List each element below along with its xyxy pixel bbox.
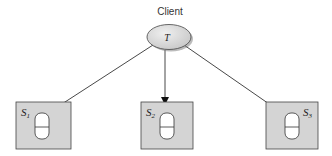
database-icon: [35, 113, 49, 139]
client-label: Client: [157, 6, 183, 17]
server-s3: S3: [266, 102, 318, 149]
database-icon: [285, 113, 299, 139]
client-node: T: [147, 25, 193, 52]
database-icon: [160, 113, 174, 139]
server-s2: S2: [141, 102, 193, 149]
server-s1: S1: [16, 102, 71, 149]
diagram-canvas: Client T S1 S2 S3: [0, 0, 332, 156]
